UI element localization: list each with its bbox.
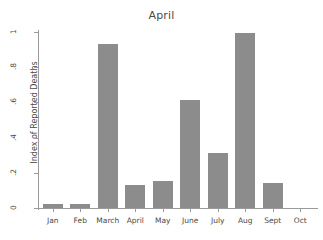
bar	[125, 185, 145, 208]
x-axis-tick-label: June	[177, 216, 205, 225]
bar	[235, 33, 255, 208]
y-axis-tick-label: .6	[9, 87, 18, 117]
bar	[180, 100, 200, 208]
plot-area	[39, 32, 314, 208]
y-axis-tick	[34, 208, 39, 209]
bar-chart-figure: April Index of Reported Deaths 0.2.4.6.8…	[0, 0, 323, 240]
x-axis-tick-label: Oct	[287, 216, 315, 225]
x-axis-tick	[190, 208, 191, 212]
bar	[208, 153, 228, 208]
bar	[263, 183, 283, 208]
bar	[153, 181, 173, 208]
y-axis-tick-label: .4	[9, 122, 18, 152]
y-axis-tick-label: .2	[9, 157, 18, 187]
x-axis-line	[36, 208, 318, 209]
x-axis-tick-label: March	[94, 216, 122, 225]
x-axis-tick-label: Aug	[232, 216, 260, 225]
bar	[98, 44, 118, 208]
chart-title: April	[0, 9, 323, 22]
y-axis-tick-label: .8	[9, 52, 18, 82]
x-axis-tick	[80, 208, 81, 212]
x-axis-tick	[218, 208, 219, 212]
x-axis-tick	[53, 208, 54, 212]
bar	[43, 204, 63, 208]
x-axis-tick	[300, 208, 301, 212]
x-axis-tick	[245, 208, 246, 212]
x-axis-tick-label: Feb	[67, 216, 95, 225]
bar	[70, 204, 90, 208]
y-axis-tick-label: 0	[9, 193, 18, 223]
y-axis-tick-label: 1	[9, 17, 18, 47]
x-axis-tick	[108, 208, 109, 212]
x-axis-tick-label: Jan	[39, 216, 67, 225]
x-axis-tick-label: July	[204, 216, 232, 225]
x-axis-tick	[273, 208, 274, 212]
x-axis-tick-label: Sept	[259, 216, 287, 225]
x-axis-tick-label: May	[149, 216, 177, 225]
x-axis-tick	[163, 208, 164, 212]
x-axis-tick-label: April	[122, 216, 150, 225]
x-axis-tick	[135, 208, 136, 212]
